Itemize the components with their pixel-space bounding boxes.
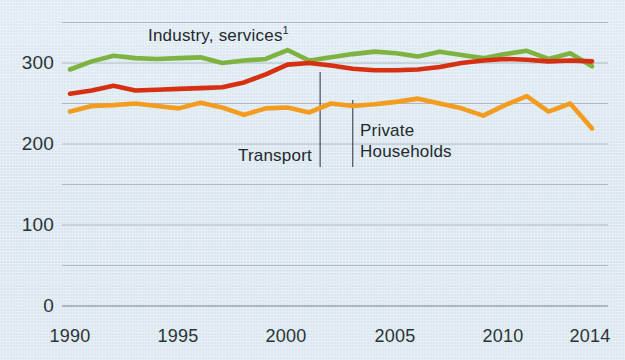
series-label-transport: Transport <box>238 146 312 166</box>
footnote-marker: 1 <box>283 24 289 36</box>
chart-plot-area <box>0 0 625 360</box>
series-label-industry-services: Industry, services1 <box>148 24 289 46</box>
series-line-private-households <box>70 96 592 128</box>
annotation-leader-lines <box>320 72 353 167</box>
series-lines-group <box>70 50 592 129</box>
y-axis-tick-200: 200 <box>0 133 54 155</box>
x-axis-tick-2005: 2005 <box>365 326 425 347</box>
series-label-private-households: PrivateHouseholds <box>360 120 452 162</box>
series-line-transport <box>70 59 592 94</box>
x-axis-tick-2014: 2014 <box>560 326 620 347</box>
series-label-industry-text: Industry, services <box>148 26 283 45</box>
y-axis-tick-0: 0 <box>0 295 54 317</box>
x-axis-tick-1990: 1990 <box>40 326 100 347</box>
x-axis-tick-1995: 1995 <box>148 326 208 347</box>
y-axis-tick-100: 100 <box>0 214 54 236</box>
y-axis-tick-300: 300 <box>0 52 54 74</box>
chart-container: 300 200 100 0 1990 1995 2000 2005 2010 2… <box>0 0 625 360</box>
x-axis-tick-2010: 2010 <box>473 326 533 347</box>
x-axis-tick-2000: 2000 <box>256 326 316 347</box>
